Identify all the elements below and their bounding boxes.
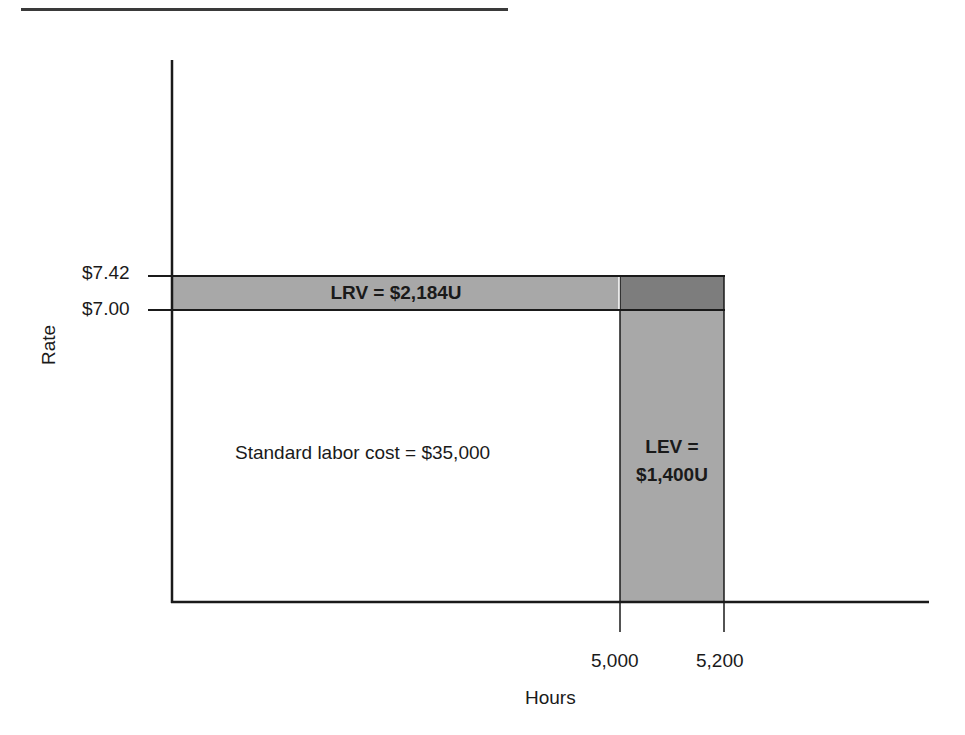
x-tick-5000: 5,000 [591,650,639,672]
y-tick-700: $7.00 [82,298,130,320]
x-tick-5200: 5,200 [696,650,744,672]
y-axis-label: Rate [38,325,60,365]
page-header-rule-ext [21,8,508,11]
y-tick-742: $7.42 [82,262,130,284]
lev-label-line1: LEV = [620,436,724,458]
labor-variance-diagram [0,0,965,735]
overlap-corner [620,276,724,310]
lev-label-line2: $1,400U [620,464,724,486]
lrv-label: LRV = $2,184U [172,282,620,304]
x-axis-label: Hours [525,687,576,709]
standard-cost-label: Standard labor cost = $35,000 [235,442,490,464]
